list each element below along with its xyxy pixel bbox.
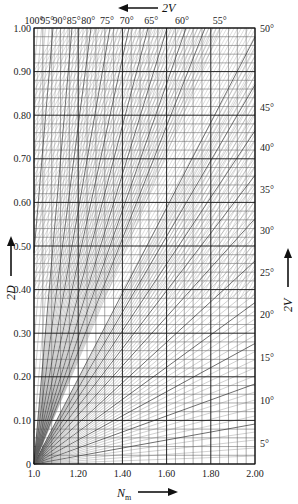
right-tick-label: 30°: [260, 225, 274, 236]
x-tick-label: 1.60: [158, 468, 176, 479]
x-axis-ticks: 1.01.201.401.601.802.00: [28, 468, 264, 479]
nomogram-chart: 00.100.200.300.400.500.600.700.800.901.0…: [0, 0, 298, 504]
y-tick-label: 0.60: [14, 197, 32, 208]
y-tick-label: 0.70: [14, 153, 32, 164]
top-tick-label: 65°: [144, 15, 158, 26]
right-tick-label: 15°: [260, 352, 274, 363]
y-tick-label: 0.20: [14, 371, 32, 382]
top-tick-label: 55°: [213, 15, 227, 26]
right-tick-label: 20°: [260, 309, 274, 320]
top-tick-label: 75°: [100, 15, 114, 26]
bottom-arrow-icon: [138, 488, 178, 496]
top-tick-label: 60°: [175, 15, 189, 26]
right-tick-label: 50°: [260, 23, 274, 34]
top-arrow-icon: [118, 4, 158, 12]
y-tick-label: 0.10: [14, 415, 32, 426]
right-tick-label: 5°: [260, 438, 269, 449]
right-arrow-icon: [284, 248, 292, 287]
right-tick-label: 10°: [260, 395, 274, 406]
x-tick-label: 1.40: [114, 468, 132, 479]
right-tick-label: 45°: [260, 102, 274, 113]
y-axis-ticks: 00.100.200.300.400.500.600.700.800.901.0…: [14, 23, 32, 470]
right-axis-title: 2V: [281, 297, 295, 312]
right-axis-ticks: 5°10°15°20°25°30°35°40°45°50°: [260, 23, 274, 450]
major-grid: [34, 28, 255, 464]
top-axis-ticks: 100°95°90°85°80°75°70°65°60°55°: [25, 15, 227, 26]
y-tick-label: 0.50: [14, 241, 32, 252]
top-tick-label: 85°: [67, 15, 81, 26]
y-tick-label: 0.80: [14, 110, 32, 121]
top-tick-label: 90°: [52, 15, 66, 26]
x-tick-label: 1.20: [69, 468, 87, 479]
x-axis-title: Nm: [116, 486, 132, 502]
top-tick-label: 80°: [81, 15, 95, 26]
left-axis-title: 2D: [4, 285, 18, 300]
x-axis-title-sub: m: [125, 493, 132, 502]
x-tick-label: 1.0: [28, 468, 41, 479]
top-axis-title: 2V: [162, 1, 177, 15]
x-tick-label: 1.80: [202, 468, 220, 479]
right-tick-label: 35°: [260, 184, 274, 195]
right-tick-label: 25°: [260, 267, 274, 278]
right-tick-label: 40°: [260, 142, 274, 153]
top-tick-label: 70°: [120, 15, 134, 26]
y-tick-label: 0.90: [14, 66, 32, 77]
y-tick-label: 0.30: [14, 328, 32, 339]
x-tick-label: 2.00: [246, 468, 264, 479]
